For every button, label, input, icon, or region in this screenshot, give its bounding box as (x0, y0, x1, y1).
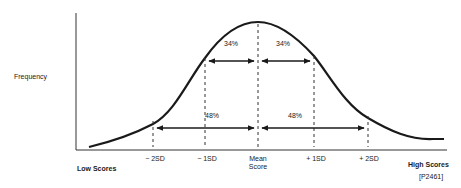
pct-label-34-right: 34% (276, 40, 290, 48)
pct-label-48-right: 48% (288, 112, 302, 120)
x-axis-label-low: Low Scores (77, 165, 116, 173)
pct-label-48-left: 48% (205, 112, 219, 120)
x-axis-label-high: High Scores (408, 161, 449, 169)
tick-label-plus1sd: + 1SD (306, 155, 326, 163)
figure-reference: [P2461] (419, 173, 443, 181)
tick-label-plus2sd: + 2SD (359, 155, 379, 163)
tick-label-minus2sd: − 2SD (145, 155, 165, 163)
tick-label-minus1sd: − 1SD (197, 155, 217, 163)
tick-label-score: Score (249, 163, 267, 171)
pct-label-34-left: 34% (224, 40, 238, 48)
y-axis-label: Frequency (14, 73, 47, 81)
bell-curve-diagram (0, 0, 461, 188)
tick-label-mean: Mean (249, 155, 267, 163)
